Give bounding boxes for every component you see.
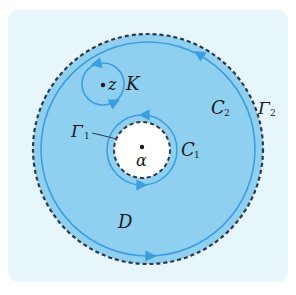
- k-arrow-top-icon: [96, 63, 100, 64]
- label-gamma1-sub: 1: [84, 131, 90, 141]
- label-k: K: [125, 73, 141, 94]
- label-gamma1: Γ: [70, 121, 84, 141]
- label-c1-sub: 1: [194, 150, 200, 160]
- label-gamma2-sub: 2: [270, 108, 276, 118]
- label-gamma2: Γ: [257, 98, 271, 118]
- label-c1: C: [181, 139, 195, 160]
- label-alpha: α: [136, 151, 147, 170]
- annulus-diagram: z K α Γ 1 C 1 C 2 Γ 2 D: [0, 0, 296, 295]
- label-c2: C: [211, 97, 225, 118]
- label-c2-sub: 2: [224, 108, 230, 118]
- label-d: D: [117, 211, 133, 232]
- point-z: [101, 83, 105, 87]
- point-alpha: [140, 145, 144, 149]
- label-z: z: [107, 75, 117, 94]
